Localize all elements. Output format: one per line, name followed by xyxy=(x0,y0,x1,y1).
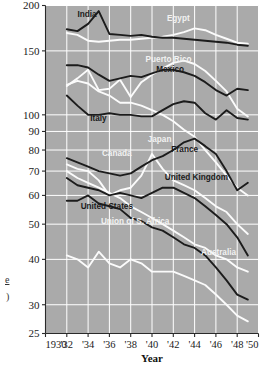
x-tick-label: '36 xyxy=(103,339,115,350)
x-tick-label: '32 xyxy=(61,339,73,350)
x-tick-label: '42 xyxy=(167,339,179,350)
series-label-puerto-rico: Puerto Rico xyxy=(146,55,192,64)
y-tick-label: 25 xyxy=(29,327,41,339)
series-label-japan: Japan xyxy=(148,135,172,144)
series-label-mexico: Mexico xyxy=(156,65,184,74)
series-label-egypt: Egypt xyxy=(167,14,190,23)
y-tick-label: 50 xyxy=(29,218,41,230)
series-label-canada: Canada xyxy=(102,149,132,158)
y-axis-ticks: 2001501009080706050403025 xyxy=(23,0,46,339)
y-tick-label: 100 xyxy=(23,109,40,121)
y-tick-label: 150 xyxy=(23,45,40,57)
y-tick-label: 30 xyxy=(29,299,41,311)
series-label-france: France xyxy=(171,145,198,154)
series-label-united-states: United States xyxy=(81,202,134,211)
series-label-australia: Australia xyxy=(201,248,236,257)
y-tick-label: 90 xyxy=(29,125,41,137)
x-tick-label: '48 xyxy=(231,339,243,350)
x-tick-label: '50 xyxy=(246,339,258,350)
x-axis-title: Year xyxy=(141,352,163,364)
series-label-united-kingdom: United Kingdom xyxy=(165,173,228,182)
x-tick-label: '34 xyxy=(82,339,95,350)
x-tick-label: '46 xyxy=(210,339,222,350)
x-tick-label: '40 xyxy=(146,339,158,350)
x-tick-label: '38 xyxy=(124,339,136,350)
y-tick-label: 80 xyxy=(29,144,41,156)
series-label-india: India xyxy=(77,10,97,19)
y-tick-label: 200 xyxy=(23,0,40,11)
y-tick-label: 60 xyxy=(29,189,41,201)
x-tick-label: '44 xyxy=(188,339,201,350)
series-label-italy: Italy xyxy=(90,114,107,123)
chart-figure: IndiaEgyptPuerto RicoMexicoItalyJapanFra… xyxy=(0,0,270,372)
line-chart: IndiaEgyptPuerto RicoMexicoItalyJapanFra… xyxy=(0,0,270,372)
y-tick-label: 40 xyxy=(29,253,41,265)
x-axis-ticks: 1930'32'34'36'38'40'42'44'46'48'50 xyxy=(46,334,259,350)
y-tick-label: 70 xyxy=(29,165,41,177)
series-label-union-of-s-africa: Union of S. Africa xyxy=(101,217,170,226)
y-axis-title-fragment-top: e xyxy=(5,274,10,285)
y-axis-title-fragment-bottom: ) xyxy=(6,291,9,303)
